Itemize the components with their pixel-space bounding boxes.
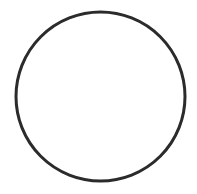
diagram-canvas: [0, 0, 197, 194]
diagram-svg: [0, 0, 197, 194]
circle-shape: [16, 12, 185, 181]
